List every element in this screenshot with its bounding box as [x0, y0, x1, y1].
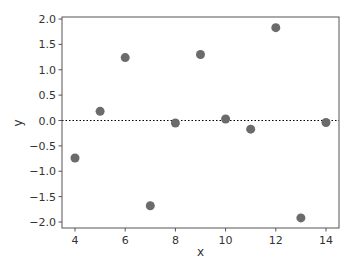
y-tick-label: 2.0	[39, 13, 57, 26]
data-point	[296, 213, 305, 222]
data-points	[71, 23, 331, 222]
y-tick-label: 1.0	[39, 64, 57, 77]
y-tick-label: −1.5	[29, 191, 56, 204]
y-tick-label: −0.5	[29, 140, 56, 153]
y-tick-label: 0.0	[39, 115, 57, 128]
x-tick-label: 12	[269, 234, 283, 247]
data-point	[196, 50, 205, 59]
data-point	[246, 125, 255, 134]
x-tick-label: 10	[219, 234, 233, 247]
x-tick-label: 4	[72, 234, 79, 247]
data-point	[96, 107, 105, 116]
axes-frame	[62, 17, 339, 228]
x-tick-label: 14	[319, 234, 333, 247]
x-tick-label: 8	[172, 234, 179, 247]
x-axis-label: x	[197, 245, 204, 259]
y-tick-label: 0.5	[39, 89, 57, 102]
data-point	[121, 53, 130, 62]
data-point	[221, 114, 230, 123]
scatter-chart: 2.01.51.00.50.0−0.5−1.0−1.5−2.0 46810121…	[0, 0, 354, 273]
data-point	[71, 154, 80, 163]
y-tick-label: −1.0	[29, 165, 56, 178]
data-point	[146, 201, 155, 210]
y-axis-label: y	[11, 119, 25, 126]
y-tick-label: 1.5	[39, 38, 57, 51]
data-point	[322, 118, 331, 127]
y-tick-label: −2.0	[29, 216, 56, 229]
data-point	[171, 119, 180, 128]
y-axis-ticks: 2.01.51.00.50.0−0.5−1.0−1.5−2.0	[29, 13, 62, 229]
data-point	[271, 23, 280, 32]
x-tick-label: 6	[122, 234, 129, 247]
